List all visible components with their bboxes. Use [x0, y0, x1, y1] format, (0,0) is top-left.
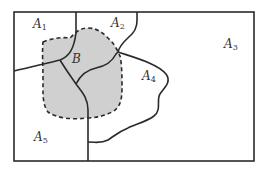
label-subscript: 2	[120, 22, 125, 31]
label-letter: A	[34, 130, 43, 144]
set-label-b: B	[72, 53, 81, 65]
label-letter: A	[111, 16, 120, 30]
label-letter: A	[142, 69, 151, 83]
label-subscript: 1	[42, 23, 47, 32]
region-label-a2: A2	[111, 17, 125, 31]
label-letter: B	[72, 52, 81, 66]
region-label-a1: A1	[33, 18, 47, 32]
boundary-a4-bottom	[88, 128, 128, 143]
label-subscript: 4	[151, 75, 156, 84]
region-label-a4: A4	[142, 70, 156, 84]
label-subscript: 3	[233, 43, 238, 52]
label-letter: A	[224, 37, 233, 51]
region-label-a3: A3	[224, 38, 238, 52]
region-label-a5: A5	[34, 131, 48, 145]
label-subscript: 5	[43, 136, 48, 145]
boundary-a3-a4	[118, 52, 168, 128]
label-letter: A	[33, 17, 42, 31]
set-b-shaded-region	[43, 28, 122, 119]
